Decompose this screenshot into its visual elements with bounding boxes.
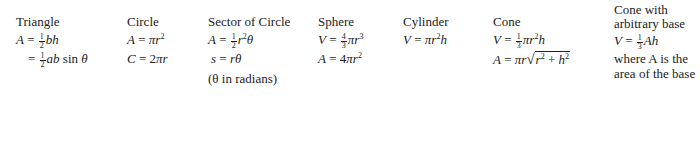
triangle-area-formula-alt: = 12ab sin θ <box>28 51 88 69</box>
sector-label-r-upper: r <box>236 107 240 117</box>
circle-title: Circle <box>127 14 159 30</box>
cylinder-label-h: h <box>461 123 466 133</box>
cone-title: Cone <box>493 14 520 30</box>
sector-note: (θ in radians) <box>208 71 277 87</box>
sphere-volume-formula: V = 43πr3 <box>318 32 363 50</box>
cone-label-r: r <box>541 132 545 142</box>
cone-arbitrary-title-line2: arbitrary base <box>614 16 685 32</box>
sector-arc-formula: s = rθ <box>211 51 241 67</box>
triangle-label-theta: θ <box>31 120 36 130</box>
circle-label-r: r <box>163 112 167 122</box>
triangle-label-h: h <box>71 114 76 124</box>
triangle-title: Triangle <box>16 14 60 30</box>
sphere-area-formula: A = 4πr2 <box>318 51 362 67</box>
cylinder-title: Cylinder <box>403 14 449 30</box>
triangle-area-formula: A = 12bh <box>16 32 59 50</box>
circle-circumference-formula: C = 2πr <box>127 51 168 67</box>
sector-label-theta: θ <box>231 120 236 130</box>
triangle-label-a: a <box>39 109 44 119</box>
cone-arbitrary-label-h: h <box>685 117 690 127</box>
sector-title: Sector of Circle <box>208 14 290 30</box>
sphere-label-r: r <box>356 113 360 123</box>
cylinder-label-r: r <box>436 94 440 104</box>
cone-area-formula: A = πr√r2 + h2 <box>493 51 570 68</box>
sector-area-formula: A = 12r2θ <box>208 32 253 50</box>
sphere-title: Sphere <box>318 14 354 30</box>
circle-area-formula: A = πr2 <box>127 32 164 48</box>
cone-label-h: h <box>563 118 568 128</box>
cone-arbitrary-note-line2: area of the base <box>614 66 695 82</box>
cone-arbitrary-note-line1: where A is the <box>614 51 688 67</box>
cylinder-volume-formula: V = πr2h <box>403 32 447 48</box>
sector-label-r-lower: r <box>248 133 252 143</box>
cone-volume-formula: V = 13πr2h <box>493 32 545 50</box>
sector-label-s: s <box>274 107 278 117</box>
cone-arbitrary-volume-formula: V = 13Ah <box>614 33 658 51</box>
triangle-label-b: b <box>56 132 61 142</box>
